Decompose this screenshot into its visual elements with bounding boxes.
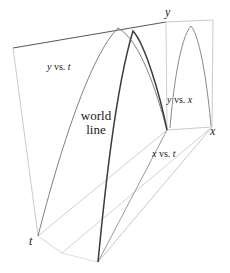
back-face-left-edge xyxy=(13,48,38,236)
plane-label-y-vs-x: y vs. x xyxy=(167,95,192,106)
plane-label-y-vs-t: y vs. t xyxy=(47,62,71,73)
plane-label-x-vs-t: x vs. t xyxy=(152,149,176,160)
world-line-label-line1: world xyxy=(72,109,120,123)
plane-label-y-vs-x-var2: x xyxy=(188,94,192,105)
axis-label-x: x xyxy=(210,125,215,138)
world-line-label-line2: line xyxy=(72,123,120,137)
physics-world-line-figure: y x t y vs. t y vs. x x vs. t world line xyxy=(0,0,230,273)
bottom-face-front-edge xyxy=(62,127,212,253)
back-face-top-edge xyxy=(13,22,166,48)
right-face-right-edge xyxy=(212,20,213,127)
back-face-right-edge xyxy=(166,22,167,130)
right-face-bottom-edge xyxy=(167,127,212,130)
launch-vertical-guide xyxy=(62,253,98,262)
plane-label-x-vs-t-var2: t xyxy=(173,148,176,159)
right-face-top-edge xyxy=(166,20,213,22)
axis-label-y: y xyxy=(165,6,170,19)
bottom-face-front-left-edge xyxy=(38,236,62,253)
box-wireframe xyxy=(13,20,213,262)
curve-y-vs-x xyxy=(170,26,211,128)
plane-label-y-vs-x-sep: vs. xyxy=(171,94,187,105)
world-line-label: world line xyxy=(72,109,120,136)
plane-label-y-vs-t-sep: vs. xyxy=(51,61,67,72)
world-line-curve xyxy=(98,31,167,262)
axis-label-t: t xyxy=(29,235,32,248)
figure-canvas xyxy=(0,0,230,273)
world-line-curve-group xyxy=(98,31,167,262)
plane-label-y-vs-t-var2: t xyxy=(68,61,71,72)
plane-label-x-vs-t-sep: vs. xyxy=(156,148,172,159)
